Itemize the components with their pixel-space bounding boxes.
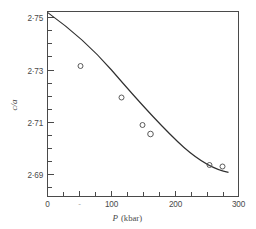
x-tick-label: 300 bbox=[232, 200, 246, 209]
y-tick-label: 2·75 bbox=[27, 14, 43, 23]
x-tick-label: 0 bbox=[45, 200, 50, 209]
y-axis-ticks bbox=[48, 18, 54, 188]
x-tick-label: 100 bbox=[105, 200, 119, 209]
x-tick-label-faint: - bbox=[78, 200, 81, 209]
x-tick-label: 200 bbox=[169, 200, 183, 209]
figure-container: 2·75 2·73 2·71 2·69 0 - 100 200 300 c/a … bbox=[0, 0, 256, 229]
data-point bbox=[119, 95, 124, 100]
x-axis-title-group: P (kbar) bbox=[112, 213, 143, 223]
fitted-curve bbox=[48, 13, 229, 173]
y-axis-title: c/a bbox=[9, 99, 19, 110]
plot-frame bbox=[48, 12, 239, 197]
data-point bbox=[140, 123, 145, 128]
plot-svg: 2·75 2·73 2·71 2·69 0 - 100 200 300 c/a … bbox=[0, 0, 256, 229]
y-tick-labels: 2·75 2·73 2·71 2·69 bbox=[27, 14, 43, 180]
data-point bbox=[78, 64, 83, 69]
x-tick-labels: 0 - 100 200 300 bbox=[45, 200, 245, 209]
y-tick-label: 2·73 bbox=[27, 67, 43, 76]
data-markers bbox=[78, 64, 225, 170]
y-tick-label: 2·71 bbox=[27, 119, 43, 128]
data-point bbox=[148, 131, 154, 137]
x-axis-title-units: (kbar) bbox=[121, 213, 142, 223]
x-axis-title-symbol: P bbox=[112, 213, 119, 223]
data-point bbox=[220, 164, 225, 169]
y-tick-label: 2·69 bbox=[27, 171, 43, 180]
frame-path bbox=[48, 12, 239, 197]
x-axis-ticks bbox=[48, 191, 239, 197]
